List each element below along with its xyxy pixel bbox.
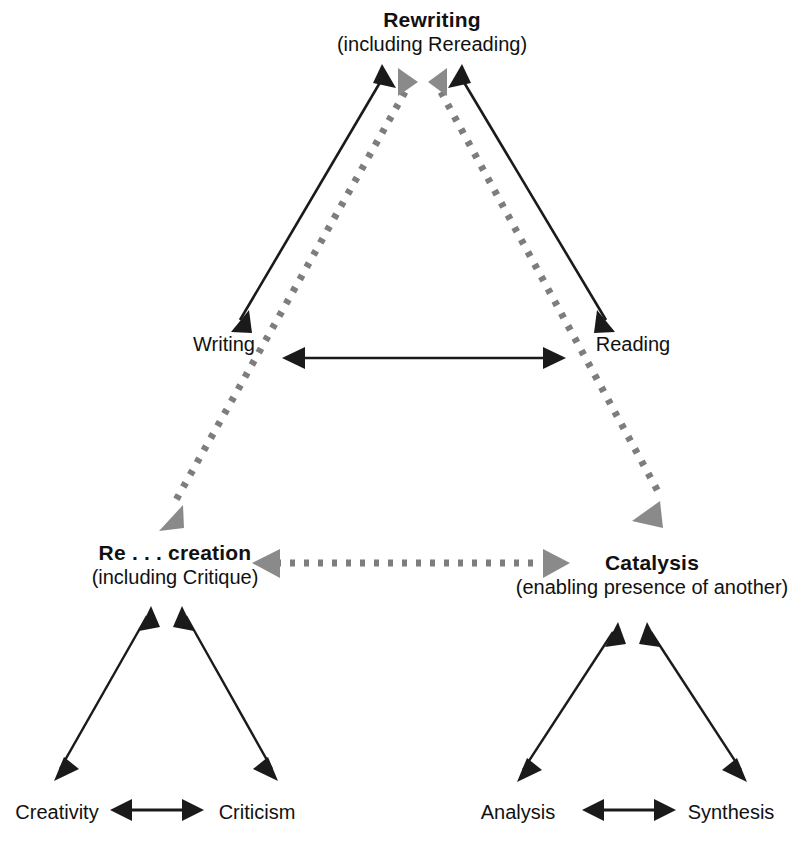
edge-recreation-criticism (173, 606, 278, 781)
diagram-canvas: Rewriting (including Rereading) Writing … (0, 0, 809, 852)
node-recreation[interactable]: Re . . . creation (including Critique) (92, 541, 259, 588)
node-reading-label: Reading (596, 333, 671, 355)
node-catalysis-sublabel: (enabling presence of another) (516, 576, 788, 598)
edge-rewriting-catalysis (428, 68, 663, 528)
edge-recreation-creativity (54, 606, 160, 781)
edge-catalysis-analysis (517, 622, 626, 782)
node-analysis[interactable]: Analysis (481, 801, 555, 823)
node-rewriting[interactable]: Rewriting (including Rereading) (337, 8, 527, 55)
node-recreation-sublabel: (including Critique) (92, 566, 259, 588)
node-analysis-label: Analysis (481, 801, 555, 823)
node-criticism[interactable]: Criticism (219, 801, 296, 823)
node-synthesis[interactable]: Synthesis (688, 801, 775, 823)
node-catalysis-label: Catalysis (516, 551, 788, 575)
node-writing-label: Writing (193, 333, 255, 355)
node-writing[interactable]: Writing (193, 333, 255, 355)
node-reading[interactable]: Reading (596, 333, 671, 355)
edge-creativity-criticism (110, 799, 204, 821)
edge-analysis-synthesis (582, 799, 676, 821)
node-rewriting-sublabel: (including Rereading) (337, 33, 527, 55)
node-creativity[interactable]: Creativity (15, 801, 98, 823)
node-rewriting-label: Rewriting (337, 8, 527, 32)
node-criticism-label: Criticism (219, 801, 296, 823)
edge-rewriting-writing (231, 64, 396, 333)
node-synthesis-label: Synthesis (688, 801, 775, 823)
node-recreation-label: Re . . . creation (92, 541, 259, 565)
edge-rewriting-recreation (159, 68, 418, 531)
node-creativity-label: Creativity (15, 801, 98, 823)
edge-catalysis-synthesis (639, 622, 747, 782)
edge-rewriting-reading (448, 64, 615, 333)
edge-layer (0, 0, 809, 852)
node-catalysis[interactable]: Catalysis (enabling presence of another) (516, 551, 788, 598)
edge-writing-reading (282, 347, 566, 369)
